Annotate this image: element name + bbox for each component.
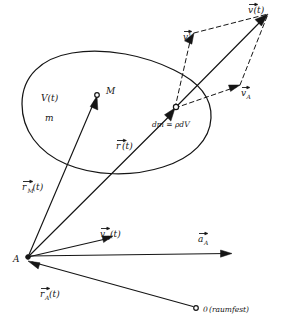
origin-note: (raumfest): [209, 305, 249, 314]
vector-a-A-arrowhead: [221, 250, 233, 257]
vector-r-A: [32, 262, 193, 307]
velocity-A-at-point-label: v A (t): [100, 227, 121, 240]
origin-marker: [194, 306, 199, 311]
vector-v-A-component: [175, 87, 236, 108]
vector-r-A-arrowhead: [28, 261, 40, 269]
velocity-A-at-point-arg: (t): [110, 229, 121, 239]
position-vector-label: r (t): [116, 139, 133, 151]
position-vector-arg: (t): [122, 141, 133, 151]
position-vector-M-base: r: [22, 182, 27, 192]
velocity-A-component-subscript: A: [246, 93, 252, 100]
velocity-total-arg: (t): [254, 5, 265, 15]
velocity-relative-prime: ': [189, 32, 191, 42]
position-vector-M-arg: (t): [33, 182, 44, 192]
acceleration-A-base: a: [198, 234, 203, 244]
mechanics-diagram: V(t) m M dm = ρdV r (t) r M (t) r A (: [0, 0, 292, 336]
volume-label: V(t): [41, 93, 59, 103]
vector-v-A-component-arrowhead: [229, 85, 241, 91]
velocity-A-at-point-base: v: [100, 229, 105, 239]
position-vector-base: r: [116, 141, 121, 151]
position-vector-A-arg: (t): [49, 289, 60, 299]
mass-element-label: dm = ρdV: [152, 120, 191, 129]
position-vector-A-label: r A (t): [40, 287, 60, 300]
parallelogram-side-from-v-prime: [194, 14, 268, 33]
reference-point-A-marker: [26, 255, 31, 260]
reference-point-A-label: A: [12, 254, 20, 264]
velocity-relative-base: v: [183, 32, 188, 42]
material-point-label: M: [105, 86, 116, 96]
vector-v-A-at-point: [28, 238, 110, 257]
velocity-A-component-base: v: [241, 88, 246, 98]
v-A-component-overbar-arrowhead: [247, 86, 250, 89]
material-point-marker: [95, 93, 100, 98]
diagram-canvas: V(t) m M dm = ρdV r (t) r M (t) r A (: [0, 0, 292, 336]
velocity-total-base: v: [248, 5, 253, 15]
acceleration-A-label: a A: [198, 232, 209, 245]
position-vector-M-label: r M (t): [22, 180, 44, 193]
vector-v-prime: [175, 37, 191, 108]
parallelogram-side-from-v-A: [240, 14, 268, 85]
a-A-overbar-arrowhead: [205, 232, 208, 235]
acceleration-A-subscript: A: [203, 239, 209, 246]
origin-label: 0 (raumfest): [203, 305, 249, 314]
mass-element-marker: [173, 104, 178, 109]
mass-label: m: [45, 113, 54, 123]
velocity-total-label: v (t): [248, 3, 265, 15]
velocity-relative-label: v ': [183, 30, 192, 42]
origin-number: 0: [203, 305, 208, 314]
velocity-A-component-label: v A: [241, 86, 252, 99]
vector-a-A: [28, 254, 228, 257]
vector-r-M: [28, 101, 95, 257]
